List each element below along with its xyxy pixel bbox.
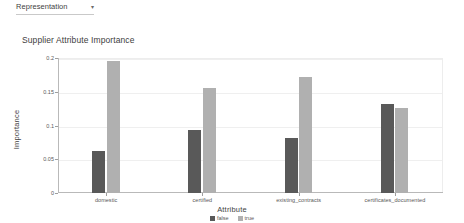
x-axis-tick-label: certificates_documented <box>364 197 425 203</box>
bar-certificates_documented-true[interactable] <box>395 108 408 193</box>
y-axis-tick-label: 0.15 <box>43 89 54 95</box>
legend-label-false: false <box>217 215 229 221</box>
x-axis-label: Attribute <box>0 205 464 214</box>
chart-card: Supplier Attribute Importance 00.050.10.… <box>0 30 464 223</box>
bar-domestic-true[interactable] <box>107 61 120 193</box>
y-axis-tick-label: 0.2 <box>46 55 54 61</box>
dropdown-underline <box>16 14 94 15</box>
bars-layer <box>58 58 443 193</box>
legend-swatch-true <box>238 216 243 221</box>
y-axis-tick-label: 0.05 <box>43 156 54 162</box>
bar-group <box>188 58 216 193</box>
bar-certified-true[interactable] <box>203 88 216 193</box>
bar-certificates_documented-false[interactable] <box>381 104 394 193</box>
caret-down-icon: ▾ <box>91 3 94 11</box>
x-axis-tick <box>202 193 203 196</box>
x-axis-tick-label: existing_contracts <box>276 197 321 203</box>
bar-group <box>285 58 313 193</box>
legend-item-false[interactable]: false <box>210 215 229 221</box>
y-axis-tick <box>55 193 58 194</box>
x-axis-tick <box>395 193 396 196</box>
y-axis-label: Importance <box>12 100 21 160</box>
bar-certified-false[interactable] <box>188 130 201 193</box>
bar-existing_contracts-false[interactable] <box>285 138 298 193</box>
representation-dropdown[interactable]: Representation ▾ <box>16 2 94 15</box>
legend-item-true[interactable]: true <box>238 215 254 221</box>
x-axis-tick <box>106 193 107 196</box>
x-axis-tick-label: domestic <box>95 197 117 203</box>
bar-existing_contracts-true[interactable] <box>299 77 312 193</box>
bar-domestic-false[interactable] <box>92 151 105 193</box>
bar-group <box>381 58 409 193</box>
x-axis-tick-label: certified <box>193 197 213 203</box>
representation-dropdown-label: Representation <box>16 2 68 12</box>
x-axis-tick <box>299 193 300 196</box>
chart-legend: falsetrue <box>0 215 464 221</box>
y-axis-tick-label: 0.1 <box>46 123 54 129</box>
legend-label-true: true <box>245 215 254 221</box>
y-axis-tick-labels: 00.050.10.150.2 <box>26 30 54 223</box>
y-axis-tick-label: 0 <box>51 190 54 196</box>
legend-swatch-false <box>210 216 215 221</box>
representation-dropdown-control[interactable]: Representation ▾ <box>16 2 94 14</box>
bar-group <box>92 58 120 193</box>
